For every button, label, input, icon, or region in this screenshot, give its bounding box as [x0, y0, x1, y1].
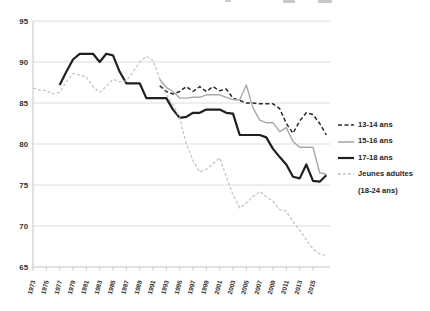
black-line-swatch-icon — [338, 154, 354, 162]
y-tick-label: 75 — [19, 181, 28, 190]
y-tick-label: 95 — [19, 17, 28, 26]
gray-line-swatch-icon — [338, 138, 354, 146]
legend-label: Jeunes adultes — [358, 166, 413, 182]
x-tick-label: 1979 — [66, 279, 77, 295]
chart-legend: 13-14 ans 15-16 ans 17-18 ans Jeunes adu… — [338, 117, 430, 199]
x-tick-label: 2001 — [213, 279, 224, 295]
y-tick-label: 85 — [19, 99, 28, 108]
x-tick-label: 1981 — [79, 279, 90, 295]
x-tick-label: 2011 — [279, 279, 289, 295]
dashed-line-swatch-icon — [338, 121, 354, 129]
legend-label: 15-16 ans — [358, 133, 393, 149]
legend-label: 13-14 ans — [358, 117, 393, 133]
x-tick-label: 2005 — [239, 279, 250, 295]
series-line-15-16-ans — [160, 79, 327, 174]
x-tick-label: 2009 — [266, 279, 277, 295]
y-tick-label: 90 — [19, 58, 28, 67]
legend-item-17-18-ans: 17-18 ans — [338, 150, 430, 166]
series-line-17-18-ans — [60, 54, 327, 182]
x-tick-label: 2013 — [293, 279, 304, 295]
legend-item-15-16-ans: 15-16 ans — [338, 133, 430, 149]
y-tick-label: 65 — [19, 263, 28, 272]
light-dashed-line-swatch-icon — [338, 170, 354, 178]
x-tick-label: 1999 — [199, 279, 210, 295]
legend-label: (18-24 ans) — [358, 183, 398, 199]
legend-item-13-14-ans: 13-14 ans — [338, 117, 430, 133]
x-tick-label: 2003 — [226, 279, 237, 295]
chart: 6570758085909519731975197719791981198319… — [0, 0, 430, 311]
x-tick-label: 1975 — [39, 279, 50, 295]
x-tick-label: 1997 — [186, 279, 197, 295]
legend-item-jeunes-adultes-line2: (18-24 ans) — [338, 183, 430, 199]
x-tick-label: 2007 — [253, 279, 264, 295]
x-tick-label: 1983 — [93, 279, 104, 295]
x-tick-label: 1985 — [106, 279, 117, 295]
x-tick-label: 1995 — [173, 279, 184, 295]
legend-label: 17-18 ans — [358, 150, 393, 166]
x-tick-label: 1977 — [53, 279, 64, 295]
y-tick-label: 80 — [19, 140, 28, 149]
x-tick-label: 1993 — [159, 279, 170, 295]
x-tick-label: 2015 — [306, 279, 317, 295]
x-tick-label: 1989 — [133, 279, 144, 295]
y-tick-label: 70 — [19, 222, 28, 231]
x-tick-label: 1987 — [119, 279, 130, 295]
x-tick-label: 1973 — [26, 279, 37, 295]
x-tick-label: 1991 — [146, 279, 157, 295]
legend-item-jeunes-adultes: Jeunes adultes — [338, 166, 430, 182]
